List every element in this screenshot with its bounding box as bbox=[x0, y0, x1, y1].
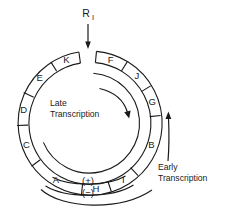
ring-inner-arc bbox=[29, 63, 151, 185]
early-transcription-arrow-group bbox=[166, 112, 172, 162]
origin-marker-group: R I bbox=[82, 7, 94, 49]
ring-divider-J-G bbox=[141, 86, 150, 92]
late-transcription-arrow-group bbox=[100, 89, 131, 119]
ring-divider-E-K bbox=[51, 62, 57, 71]
ring-divider-F-start bbox=[95, 51, 96, 62]
segment-label-J: J bbox=[134, 70, 139, 81]
ring-divider-G-B bbox=[150, 116, 161, 117]
origin-arrow-head bbox=[85, 42, 91, 50]
segment-label-D: D bbox=[20, 104, 27, 115]
early-arrow-head bbox=[166, 112, 172, 120]
segment-label-F: F bbox=[108, 54, 114, 65]
origin-label-subscript: I bbox=[92, 13, 94, 22]
minus-strand-label: (−) bbox=[82, 187, 94, 198]
early-transcription-line1: Early bbox=[158, 162, 178, 172]
segment-label-I: I bbox=[122, 174, 125, 185]
plus-strand-label: (+) bbox=[82, 175, 94, 186]
ring-divider-F-J bbox=[121, 62, 127, 71]
ring-divider-A-C bbox=[32, 160, 41, 167]
segment-label-K: K bbox=[63, 54, 70, 65]
origin-label-R: R bbox=[82, 7, 90, 19]
ring-divider-B-I bbox=[131, 168, 139, 176]
plus-strand-arc bbox=[43, 73, 139, 173]
late-arrow-head bbox=[124, 111, 130, 119]
early-transcription-line2: Transcription bbox=[158, 173, 208, 183]
late-transcription-line2: Transcription bbox=[50, 109, 100, 119]
segment-label-C: C bbox=[23, 139, 30, 150]
segment-label-E: E bbox=[36, 72, 42, 83]
ring-divider-K-end bbox=[79, 52, 81, 63]
early-arrow-shaft bbox=[168, 118, 169, 162]
late-transcription-label-group: Late Transcription bbox=[50, 98, 100, 119]
ring-divider-D-E bbox=[24, 93, 34, 98]
late-transcription-line1: Late bbox=[50, 98, 67, 108]
early-transcription-label-group: Early Transcription bbox=[158, 162, 208, 183]
segment-label-G: G bbox=[149, 96, 156, 107]
plus-strand-group: (+) bbox=[43, 73, 139, 186]
genome-map-figure: R I bbox=[0, 0, 229, 223]
figure-root: R I bbox=[0, 0, 229, 223]
late-arrow-shaft bbox=[100, 89, 128, 113]
segment-label-B: B bbox=[148, 139, 154, 150]
